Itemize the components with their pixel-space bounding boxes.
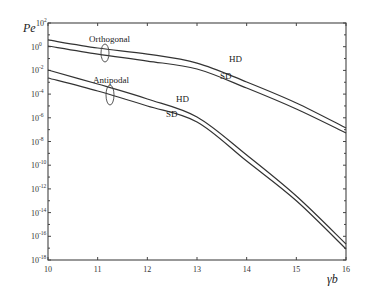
orthogonal-group-ellipse xyxy=(101,44,109,62)
curve-antipodal-sd xyxy=(48,78,346,249)
y-tick-label: 10-6 xyxy=(31,112,44,123)
antipodal-label: Antipodal xyxy=(93,75,129,85)
plot-border xyxy=(48,23,346,260)
y-tick-label: 10-12 xyxy=(31,183,47,194)
y-axis-ticks: 10210010-210-410-610-810-1010-1210-1410-… xyxy=(31,17,346,265)
y-tick-label: 10-18 xyxy=(31,254,47,265)
y-tick-label: 10-10 xyxy=(31,159,47,170)
y-tick-label: 10-16 xyxy=(31,230,47,241)
y-axis-label: Pe xyxy=(22,21,36,35)
x-tick-label: 14 xyxy=(243,265,251,274)
plot-frame xyxy=(48,23,346,260)
y-tick-label: 10-2 xyxy=(31,64,44,75)
x-axis-ticks: 10111213141516 xyxy=(44,23,350,274)
curve-antipodal-hd xyxy=(48,70,346,244)
x-tick-label: 16 xyxy=(342,265,350,274)
x-tick-label: 10 xyxy=(44,265,52,274)
x-tick-label: 11 xyxy=(94,265,102,274)
antipodal-sd-label: SD xyxy=(166,109,178,119)
x-tick-label: 13 xyxy=(193,265,201,274)
y-tick-label: 102 xyxy=(36,17,47,28)
y-tick-label: 10-14 xyxy=(31,207,47,218)
chart-svg: 10111213141516 10210010-210-410-610-810-… xyxy=(0,0,368,301)
x-tick-label: 12 xyxy=(143,265,151,274)
x-tick-label: 15 xyxy=(292,265,300,274)
orthogonal-label: Orthogonal xyxy=(89,34,130,44)
orthogonal-hd-label: HD xyxy=(229,54,242,64)
y-tick-label: 10-8 xyxy=(31,136,44,147)
y-tick-label: 10-4 xyxy=(31,88,44,99)
curves xyxy=(48,40,346,249)
antipodal-hd-label: HD xyxy=(176,94,189,104)
y-tick-label: 100 xyxy=(31,41,42,52)
annotations: OrthogonalAntipodalHDSDHDSD xyxy=(89,34,242,119)
orthogonal-sd-label: SD xyxy=(220,71,232,81)
x-axis-label: γb xyxy=(327,272,338,286)
